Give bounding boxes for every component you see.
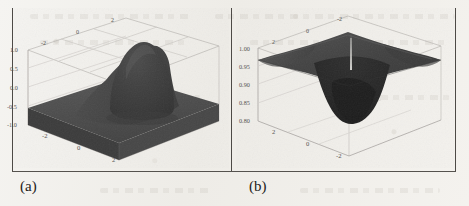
panel-a-ztick-label: 0.0 [10, 84, 18, 91]
panel-a-ytick-label: 0 [76, 29, 79, 35]
panel-b-caption: (b) [249, 178, 267, 195]
frame-bottom-rule [12, 171, 456, 172]
panel-b-ytick-label: -2 [337, 16, 342, 22]
frame-right-border [455, 8, 456, 171]
panel-b-ztick-label: 0.80 [239, 117, 250, 124]
panel-b-xtick-label: -2 [336, 152, 342, 159]
panel-a-surface-plot [14, 8, 229, 168]
panel-b-xtick-label: 0 [306, 140, 309, 147]
panel-a-ytick-label: 2 [111, 17, 114, 23]
panel-b-ytick-label: 2 [272, 39, 275, 45]
panel-a-ztick-label: -1.0 [7, 121, 17, 128]
panel-b-surface-plot [236, 8, 454, 168]
panel-a-xtick-label: 2 [112, 156, 115, 163]
panel-a-ytick-label: -2 [41, 40, 46, 46]
panel-b-ytick-label: 0 [306, 28, 309, 34]
panel-b-xtick-label: 2 [272, 128, 275, 135]
frame-middle-divider [231, 8, 232, 171]
panel-b-ztick-label: 0.95 [239, 63, 250, 70]
panel-a-ztick-label: 1.0 [10, 46, 18, 53]
panel-a-xtick-label: -2 [42, 132, 48, 139]
panel-a-caption: (a) [20, 178, 37, 195]
panel-a-xtick-label: 0 [77, 144, 80, 151]
panel-b-ztick-label: 0.90 [239, 81, 250, 88]
panel-b-ztick-label: 1.00 [239, 45, 250, 52]
panel-a-ztick-label: 0.5 [10, 65, 18, 72]
panel-a-ztick-label: -0.5 [7, 103, 17, 110]
panel-b-ztick-label: 0.85 [239, 99, 250, 106]
panel-b: 1.00 0.95 0.90 0.85 0.80 2 0 -2 2 0 -2 [236, 8, 454, 168]
panel-a: 1.0 0.5 0.0 -0.5 -1.0 -2 0 2 -2 0 2 [14, 8, 229, 168]
